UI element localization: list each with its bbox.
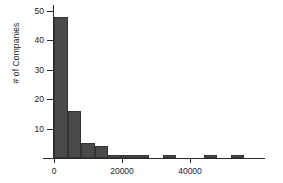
histogram-bar <box>136 155 150 158</box>
histogram-bar <box>95 146 109 158</box>
histogram-bar <box>54 17 68 158</box>
histogram-bar <box>163 155 177 158</box>
histogram-figure: # of Companies 1020304050 02000040000 <box>0 0 283 183</box>
plot-area <box>54 5 265 158</box>
y-tick-mark <box>47 70 53 71</box>
histogram-bar <box>108 155 122 158</box>
histogram-bar <box>122 155 136 158</box>
histogram-bar <box>68 111 82 158</box>
x-tick-mark <box>54 158 55 163</box>
y-tick-label: 50 <box>35 7 44 15</box>
y-tick-label: 40 <box>35 36 44 44</box>
y-tick-mark <box>47 40 53 41</box>
y-tick-label: 10 <box>35 125 44 133</box>
x-tick-mark <box>122 158 123 163</box>
x-axis-spine <box>43 158 265 159</box>
y-tick-label: 30 <box>35 66 44 74</box>
y-axis-label: # of Companies <box>11 5 21 101</box>
x-tick-label: 0 <box>52 166 57 176</box>
y-tick-mark <box>47 99 53 100</box>
y-tick-mark <box>47 129 53 130</box>
y-tick-label: 20 <box>35 95 44 103</box>
histogram-bar <box>231 155 245 158</box>
x-tick-mark <box>190 158 191 163</box>
histogram-bar <box>204 155 218 158</box>
x-tick-label: 40000 <box>178 166 202 176</box>
histogram-bar <box>81 143 95 158</box>
y-tick-mark <box>47 11 53 12</box>
x-tick-label: 20000 <box>110 166 134 176</box>
